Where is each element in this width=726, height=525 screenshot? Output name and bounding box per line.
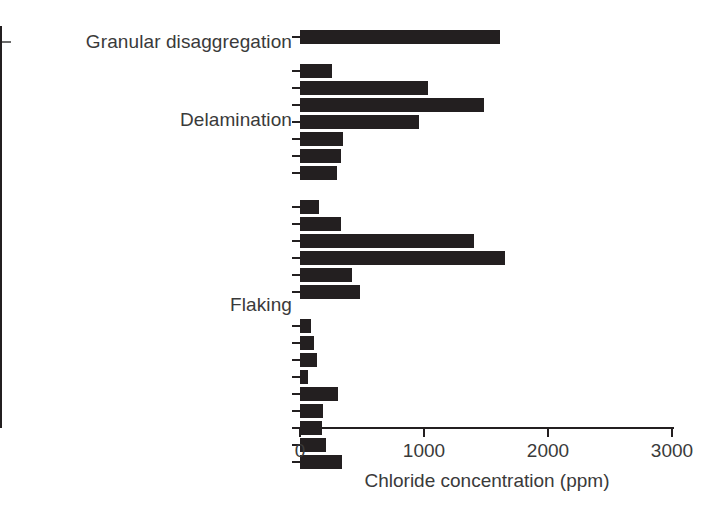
y-tick	[292, 104, 300, 106]
category-label-granular-disaggregation: Granular disaggregation	[30, 32, 292, 51]
bar	[300, 64, 332, 78]
y-tick	[292, 325, 300, 327]
bar	[300, 404, 323, 418]
category-label-flaking: Flaking	[30, 295, 292, 314]
bar	[300, 370, 308, 384]
bar	[300, 115, 419, 129]
y-tick	[292, 257, 300, 259]
bar	[300, 251, 505, 265]
bar	[300, 421, 322, 435]
y-tick	[292, 223, 300, 225]
x-tick-label: 3000	[637, 440, 707, 461]
category-label-text: Delamination	[30, 110, 292, 129]
bar	[300, 353, 317, 367]
x-tick	[423, 429, 425, 437]
bar	[300, 285, 360, 299]
cropped-tick-mark	[2, 41, 11, 43]
bar	[300, 98, 484, 112]
x-tick	[299, 429, 301, 437]
bar-chart-figure: Granular disaggregation Delamination Fla…	[0, 0, 726, 525]
category-label-text: Granular disaggregation	[30, 32, 292, 51]
y-tick	[292, 461, 300, 463]
y-tick	[292, 36, 300, 38]
bar	[300, 217, 341, 231]
bar	[300, 200, 319, 214]
y-axis-line	[0, 26, 2, 428]
y-tick	[292, 342, 300, 344]
y-tick	[292, 138, 300, 140]
bar	[300, 234, 474, 248]
y-tick	[292, 70, 300, 72]
y-tick	[292, 172, 300, 174]
bar	[300, 132, 343, 146]
y-tick	[292, 291, 300, 293]
y-tick	[292, 206, 300, 208]
bar	[300, 319, 311, 333]
bar	[300, 149, 341, 163]
x-tick	[547, 429, 549, 437]
x-tick-label: 2000	[513, 440, 583, 461]
y-tick	[292, 155, 300, 157]
bar	[300, 268, 352, 282]
bar	[300, 336, 314, 350]
y-tick	[292, 274, 300, 276]
x-axis-line	[300, 427, 674, 429]
y-tick	[292, 87, 300, 89]
y-tick	[292, 393, 300, 395]
y-tick	[292, 410, 300, 412]
y-tick	[292, 121, 300, 123]
y-tick	[292, 359, 300, 361]
x-tick-label: 0	[265, 440, 335, 461]
bar	[300, 30, 500, 44]
bar	[300, 166, 337, 180]
x-axis-title: Chloride concentration (ppm)	[300, 470, 674, 492]
category-label-delamination: Delamination	[30, 110, 292, 129]
x-tick-label: 1000	[389, 440, 459, 461]
bar	[300, 387, 338, 401]
bar	[300, 81, 428, 95]
category-label-text: Flaking	[30, 295, 292, 314]
y-tick	[292, 240, 300, 242]
y-tick	[292, 376, 300, 378]
x-tick	[671, 429, 673, 437]
